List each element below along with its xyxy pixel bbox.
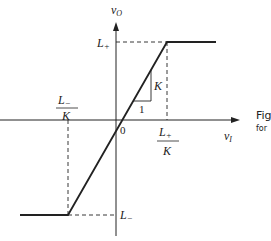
origin-label: 0	[120, 124, 126, 136]
lower-level-label: L−	[119, 208, 133, 223]
slope-rise-label: K	[153, 79, 163, 93]
svg-text:L+: L+	[158, 125, 172, 140]
y-axis-arrow-icon	[113, 22, 119, 31]
upper-level-label: L+	[96, 36, 110, 51]
svg-text:K: K	[162, 144, 172, 158]
y-axis-label: vO	[111, 3, 122, 18]
limiter-diagram: vO vI 0 L+ L− L− K L+ K K 1 Fig for	[0, 0, 271, 241]
x-axis-arrow-icon	[231, 117, 240, 123]
svg-text:L−: L−	[57, 93, 71, 108]
caption-line-2: for	[256, 124, 268, 133]
right-breakpoint-label: L+ K	[157, 125, 179, 158]
svg-text:K: K	[61, 109, 71, 123]
left-breakpoint-label: L− K	[56, 93, 78, 123]
transfer-curve	[20, 42, 216, 215]
x-axis-label: vI	[224, 129, 232, 144]
slope-run-label: 1	[139, 103, 145, 115]
caption-line-1: Fig	[256, 109, 271, 122]
